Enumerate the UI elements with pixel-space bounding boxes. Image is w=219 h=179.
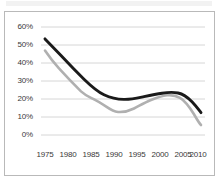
y-tick-label-40: 40% (7, 58, 33, 67)
y-tick-label-30: 30% (7, 76, 33, 85)
y-tick-label-20: 20% (7, 94, 33, 103)
scan-artifact-band (6, 1, 212, 6)
y-tick-label-10: 10% (7, 112, 33, 121)
chart-plot-frame: 60% 50% 40% 30% 20% 10% 0% 1975 1980 198… (4, 11, 215, 176)
y-tick-label-60: 60% (7, 22, 33, 31)
y-tick-label-50: 50% (7, 40, 33, 49)
series-black-line (45, 39, 201, 113)
gridlines (41, 27, 205, 135)
y-tick-label-0: 0% (7, 130, 33, 139)
chart-figure: 60% 50% 40% 30% 20% 10% 0% 1975 1980 198… (0, 0, 219, 179)
x-tick-label-2010: 2010 (185, 150, 211, 159)
